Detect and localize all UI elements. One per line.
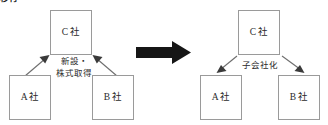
label-line-1: 子会社化 <box>232 59 288 71</box>
transition-arrow-icon <box>136 41 191 64</box>
node-before-a: A 社 <box>9 75 51 120</box>
node-after-b: B 社 <box>278 75 320 120</box>
node-after-c: C 社 <box>238 10 280 55</box>
node-after-a: A 社 <box>200 75 242 120</box>
label-line-1: 新設・ <box>52 55 96 67</box>
label-subsidiarization: 子会社化 <box>232 59 288 71</box>
arrow-c-to-a <box>217 56 238 73</box>
diagram-canvas: 移行 C 社 A 社 B 社 新設・ 株式取得 <box>0 0 328 125</box>
node-before-b: B 社 <box>92 75 134 120</box>
arrow-a-to-c <box>25 55 50 76</box>
label-line-2: 株式取得 <box>52 67 96 79</box>
arrow-b-to-c <box>93 55 118 76</box>
arrow-c-to-b <box>282 56 305 73</box>
node-before-c: C 社 <box>50 10 92 55</box>
label-new-establishment-share-acquisition: 新設・ 株式取得 <box>52 55 96 79</box>
heading-fragment: 移行 <box>0 0 18 3</box>
